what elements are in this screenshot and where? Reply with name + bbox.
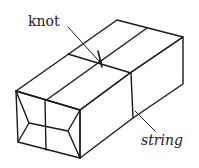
knot-label: knot xyxy=(28,13,60,29)
box-top-face xyxy=(16,20,183,110)
knot-dot xyxy=(98,59,102,63)
string-leader xyxy=(135,111,155,131)
box-end-face xyxy=(16,91,80,158)
string-label: string xyxy=(141,132,183,148)
knot-mark xyxy=(98,51,102,67)
